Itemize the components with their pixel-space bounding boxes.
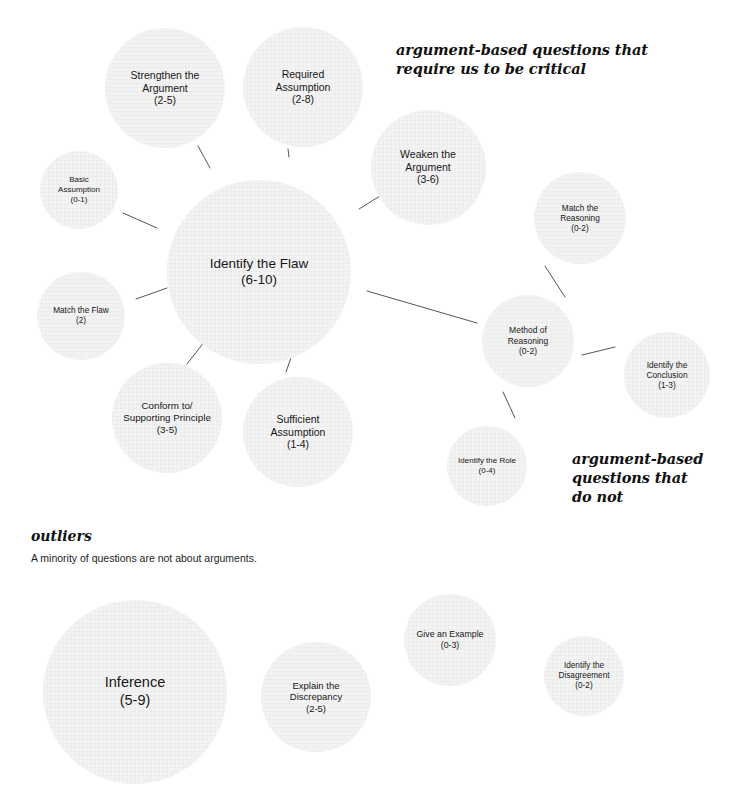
bubble-explain-the-discrepancy[interactable]: Explain the Discrepancy(2-5) xyxy=(261,642,371,752)
bubble-count-sufficient-assumption: (1-4) xyxy=(271,438,326,451)
connector-method-of-reasoning-to-identify-the-role xyxy=(503,392,515,418)
annotation-argument-based-do-not: argument-based questions that do not xyxy=(572,449,703,506)
bubble-count-identify-the-disagreement: (0-2) xyxy=(559,681,610,691)
bubble-count-identify-the-role: (0-4) xyxy=(458,466,516,476)
bubble-required-assumption[interactable]: Required Assumption(2-8) xyxy=(243,27,363,147)
bubble-identify-the-conclusion[interactable]: Identify the Conclusion(1-3) xyxy=(624,332,710,418)
bubble-label-explain-the-discrepancy: Explain the Discrepancy xyxy=(290,680,342,703)
bubble-count-explain-the-discrepancy: (2-5) xyxy=(290,703,342,715)
bubble-inference[interactable]: Inference(5-9) xyxy=(43,600,227,784)
bubble-count-required-assumption: (2-8) xyxy=(276,93,331,106)
bubble-text-sufficient-assumption: Sufficient Assumption(1-4) xyxy=(267,413,330,451)
bubble-method-of-reasoning[interactable]: Method of Reasoning(0-2) xyxy=(482,295,574,387)
bubble-give-an-example[interactable]: Give an Example(0-3) xyxy=(404,594,496,686)
annotation-argument-based-critical: argument-based questions that require us… xyxy=(396,40,648,78)
connector-strengthen-the-argument-to-identify-the-flaw xyxy=(198,146,210,168)
bubble-match-the-flaw[interactable]: Match the Flaw(2) xyxy=(37,272,125,360)
bubble-label-identify-the-conclusion: Identify the Conclusion xyxy=(646,360,687,380)
connector-required-assumption-to-identify-the-flaw xyxy=(288,149,289,157)
connector-method-of-reasoning-to-identify-the-conclusion xyxy=(582,347,615,355)
bubble-text-identify-the-role: Identify the Role(0-4) xyxy=(454,456,520,476)
bubble-text-identify-the-conclusion: Identify the Conclusion(1-3) xyxy=(642,360,691,390)
bubble-label-method-of-reasoning: Method of Reasoning xyxy=(508,325,549,346)
bubble-text-match-the-reasoning: Match the Reasoning(0-2) xyxy=(556,203,604,233)
outliers-subtitle: A minority of questions are not about ar… xyxy=(31,552,257,564)
bubble-label-match-the-reasoning: Match the Reasoning xyxy=(560,203,600,223)
bubble-count-identify-the-conclusion: (1-3) xyxy=(646,380,687,390)
bubble-text-match-the-flaw: Match the Flaw(2) xyxy=(49,306,113,326)
bubble-count-match-the-reasoning: (0-2) xyxy=(560,223,600,233)
connector-weaken-the-argument-to-identify-the-flaw xyxy=(359,196,380,209)
bubble-text-strengthen-the-argument: Strengthen the Argument(2-5) xyxy=(127,69,204,107)
bubble-count-inference: (5-9) xyxy=(105,692,165,710)
bubble-weaken-the-argument[interactable]: Weaken the Argument(3-6) xyxy=(371,110,486,225)
bubble-count-give-an-example: (0-3) xyxy=(417,640,484,651)
bubble-strengthen-the-argument[interactable]: Strengthen the Argument(2-5) xyxy=(105,28,225,148)
bubble-label-give-an-example: Give an Example xyxy=(417,629,484,640)
connector-match-the-flaw-to-identify-the-flaw xyxy=(136,288,167,299)
bubble-count-basic-assumption: (0-1) xyxy=(58,195,100,205)
bubble-text-method-of-reasoning: Method of Reasoning(0-2) xyxy=(504,325,553,356)
bubble-text-explain-the-discrepancy: Explain the Discrepancy(2-5) xyxy=(286,680,346,715)
bubble-count-conform-supporting: (3-5) xyxy=(123,424,211,436)
bubble-label-identify-the-disagreement: Identify the Disagreement xyxy=(559,661,610,681)
outliers-heading: outliers xyxy=(31,528,92,544)
bubble-identify-the-role[interactable]: Identify the Role(0-4) xyxy=(447,426,527,506)
bubble-label-match-the-flaw: Match the Flaw xyxy=(53,306,109,316)
bubble-text-identify-the-disagreement: Identify the Disagreement(0-2) xyxy=(555,661,614,691)
bubble-text-give-an-example: Give an Example(0-3) xyxy=(413,629,488,650)
bubble-text-weaken-the-argument: Weaken the Argument(3-6) xyxy=(396,148,460,186)
bubble-label-sufficient-assumption: Sufficient Assumption xyxy=(271,413,326,439)
bubble-text-identify-the-flaw: Identify the Flaw(6-10) xyxy=(206,256,312,289)
bubble-label-inference: Inference xyxy=(105,674,165,692)
bubble-identify-the-disagreement[interactable]: Identify the Disagreement(0-2) xyxy=(544,636,624,716)
bubble-count-identify-the-flaw: (6-10) xyxy=(210,272,308,288)
bubble-label-weaken-the-argument: Weaken the Argument xyxy=(400,148,456,174)
bubble-label-required-assumption: Required Assumption xyxy=(276,68,331,94)
bubble-sufficient-assumption[interactable]: Sufficient Assumption(1-4) xyxy=(243,377,353,487)
bubble-label-strengthen-the-argument: Strengthen the Argument xyxy=(131,69,200,95)
bubble-text-conform-supporting: Conform to/ Supporting Principle(3-5) xyxy=(119,400,215,436)
connector-identify-the-flaw-to-method-of-reasoning xyxy=(367,291,477,323)
bubble-identify-the-flaw[interactable]: Identify the Flaw(6-10) xyxy=(167,180,351,364)
bubble-count-match-the-flaw: (2) xyxy=(53,316,109,326)
bubble-label-conform-supporting: Conform to/ Supporting Principle xyxy=(123,400,211,424)
bubble-match-the-reasoning[interactable]: Match the Reasoning(0-2) xyxy=(534,172,626,264)
bubble-basic-assumption[interactable]: Basic Assumption(0-1) xyxy=(40,151,118,229)
bubble-label-identify-the-role: Identify the Role xyxy=(458,456,516,466)
bubble-label-identify-the-flaw: Identify the Flaw xyxy=(210,256,308,272)
bubble-label-basic-assumption: Basic Assumption xyxy=(58,175,100,195)
bubble-count-method-of-reasoning: (0-2) xyxy=(508,346,549,356)
bubble-count-strengthen-the-argument: (2-5) xyxy=(131,94,200,107)
bubble-text-inference: Inference(5-9) xyxy=(101,674,169,709)
bubble-text-basic-assumption: Basic Assumption(0-1) xyxy=(54,175,104,204)
bubble-count-weaken-the-argument: (3-6) xyxy=(400,173,456,186)
bubble-conform-supporting[interactable]: Conform to/ Supporting Principle(3-5) xyxy=(112,363,222,473)
bubble-text-required-assumption: Required Assumption(2-8) xyxy=(272,68,335,106)
connector-match-the-reasoning-to-method-of-reasoning xyxy=(545,266,565,297)
diagram-canvas: Identify the Flaw(6-10)Strengthen the Ar… xyxy=(0,0,732,796)
connector-basic-assumption-to-identify-the-flaw xyxy=(123,213,157,228)
